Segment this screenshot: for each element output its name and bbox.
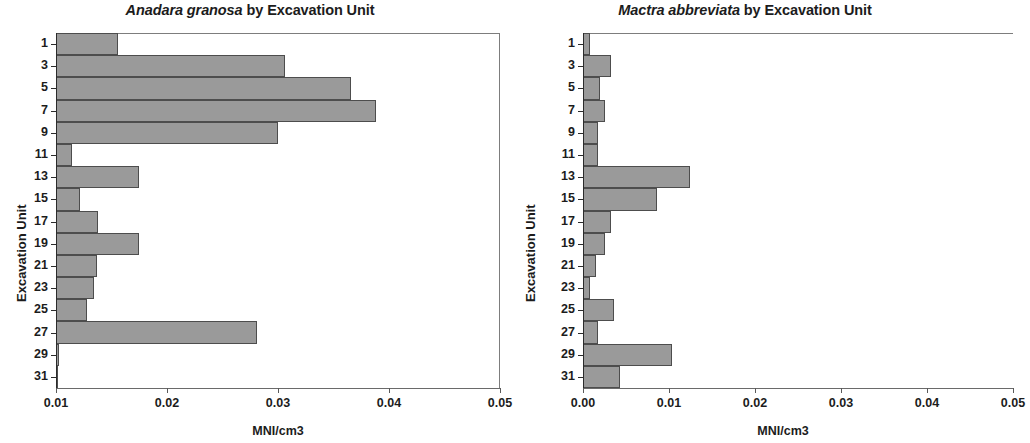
y-tick-label-1: 1 (541, 36, 575, 50)
chart-title-species-right: Mactra abbreviata (618, 2, 740, 18)
bar-unit-23 (56, 277, 94, 299)
y-tick-label-27: 27 (541, 325, 575, 339)
y-tick-31 (51, 377, 56, 378)
x-tick-label-0.04: 0.04 (359, 396, 419, 410)
x-axis-line-right (583, 388, 1013, 389)
x-axis-title-left: MNI/cm3 (56, 424, 500, 438)
bar-unit-11 (56, 144, 72, 166)
bar-unit-21 (583, 255, 596, 277)
y-tick-7 (578, 111, 583, 112)
plot-area-left (56, 33, 500, 388)
y-tick-9 (578, 133, 583, 134)
y-tick-label-11: 11 (14, 147, 48, 161)
y-axis-title-right: Excavation Unit (523, 204, 538, 302)
plot-area-right (583, 33, 1013, 388)
chart-title-species-left: Anadara granosa (126, 2, 243, 18)
y-tick-19 (578, 244, 583, 245)
y-tick-label-9: 9 (14, 125, 48, 139)
chart-title-rest-left: by Excavation Unit (243, 2, 375, 18)
y-tick-5 (578, 88, 583, 89)
y-tick-23 (578, 288, 583, 289)
bar-unit-11 (583, 144, 598, 166)
y-tick-13 (578, 177, 583, 178)
bar-unit-29 (583, 344, 672, 366)
x-tick-label-0.02: 0.02 (725, 396, 785, 410)
y-tick-label-17: 17 (14, 214, 48, 228)
x-tick-label-0.05: 0.05 (983, 396, 1030, 410)
y-tick-3 (51, 66, 56, 67)
y-tick-label-31: 31 (541, 369, 575, 383)
y-tick-25 (51, 310, 56, 311)
bar-unit-13 (583, 166, 690, 188)
bar-unit-19 (583, 233, 605, 255)
y-tick-label-11: 11 (541, 147, 575, 161)
x-tick-0.05 (1013, 388, 1014, 393)
y-tick-29 (51, 355, 56, 356)
y-tick-label-3: 3 (541, 58, 575, 72)
y-tick-label-25: 25 (541, 302, 575, 316)
y-tick-label-21: 21 (541, 258, 575, 272)
x-tick-0.00 (583, 388, 584, 393)
x-tick-0.04 (389, 388, 390, 393)
y-tick-27 (51, 333, 56, 334)
y-tick-label-29: 29 (541, 347, 575, 361)
x-tick-0.03 (278, 388, 279, 393)
x-tick-label-0.02: 0.02 (137, 396, 197, 410)
y-tick-1 (578, 44, 583, 45)
y-tick-19 (51, 244, 56, 245)
bar-unit-15 (56, 188, 80, 210)
y-tick-15 (578, 199, 583, 200)
bar-unit-15 (583, 188, 657, 210)
x-tick-0.05 (500, 388, 501, 393)
y-tick-label-13: 13 (541, 169, 575, 183)
y-tick-label-5: 5 (541, 80, 575, 94)
y-tick-label-27: 27 (14, 325, 48, 339)
y-tick-25 (578, 310, 583, 311)
y-tick-label-21: 21 (14, 258, 48, 272)
bar-unit-13 (56, 166, 139, 188)
y-tick-label-9: 9 (541, 125, 575, 139)
y-tick-1 (51, 44, 56, 45)
bar-unit-31 (583, 366, 620, 388)
y-tick-label-23: 23 (14, 280, 48, 294)
y-tick-7 (51, 111, 56, 112)
bar-unit-23 (583, 277, 590, 299)
y-tick-label-17: 17 (541, 214, 575, 228)
bar-series-right (583, 33, 1013, 388)
x-tick-0.04 (927, 388, 928, 393)
x-tick-0.01 (56, 388, 57, 393)
y-tick-29 (578, 355, 583, 356)
y-tick-label-31: 31 (14, 369, 48, 383)
bar-unit-27 (583, 321, 598, 343)
chart-title-right: Mactra abbreviata by Excavation Unit (510, 2, 980, 18)
x-tick-0.01 (669, 388, 670, 393)
x-tick-label-0.00: 0.00 (553, 396, 613, 410)
y-tick-label-1: 1 (14, 36, 48, 50)
y-tick-3 (578, 66, 583, 67)
bar-unit-9 (583, 122, 598, 144)
bar-unit-25 (583, 299, 614, 321)
y-tick-15 (51, 199, 56, 200)
y-tick-label-5: 5 (14, 80, 48, 94)
y-tick-label-23: 23 (541, 280, 575, 294)
x-tick-0.03 (841, 388, 842, 393)
y-tick-label-7: 7 (541, 103, 575, 117)
y-tick-5 (51, 88, 56, 89)
bar-unit-5 (56, 77, 351, 99)
bar-unit-5 (583, 77, 600, 99)
y-tick-label-15: 15 (541, 191, 575, 205)
y-tick-17 (578, 222, 583, 223)
x-tick-label-0.03: 0.03 (811, 396, 871, 410)
bar-unit-7 (583, 100, 605, 122)
y-tick-label-7: 7 (14, 103, 48, 117)
y-tick-11 (51, 155, 56, 156)
bar-unit-19 (56, 233, 139, 255)
y-tick-13 (51, 177, 56, 178)
bar-unit-9 (56, 122, 278, 144)
y-tick-21 (51, 266, 56, 267)
panel-mactra-abbreviata: Mactra abbreviata by Excavation Unit Exc… (510, 0, 1013, 443)
bar-unit-21 (56, 255, 97, 277)
bar-unit-25 (56, 299, 87, 321)
bar-unit-3 (56, 55, 285, 77)
